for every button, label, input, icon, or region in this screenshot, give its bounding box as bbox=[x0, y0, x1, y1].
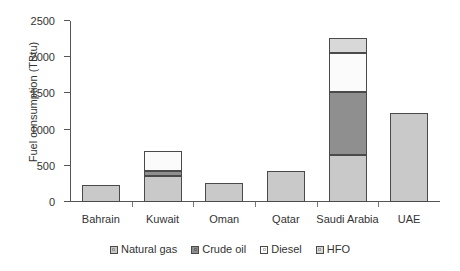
legend-label: Diesel bbox=[271, 244, 302, 255]
y-tick-2500: 2500 bbox=[64, 20, 70, 21]
bar-uae[interactable] bbox=[390, 113, 428, 202]
bar-oman[interactable] bbox=[205, 183, 243, 202]
legend-swatch-icon bbox=[110, 246, 118, 254]
legend-swatch-icon bbox=[260, 246, 268, 254]
y-tick-label-1500: 1500 bbox=[31, 87, 55, 99]
legend-item-hfo[interactable]: HFO bbox=[316, 244, 350, 255]
stacked-bar-chart: Fuel consumption (TBtu) 0500100015002000… bbox=[0, 0, 460, 271]
x-tick-4 bbox=[378, 202, 379, 207]
legend-item-crude-oil[interactable]: Crude oil bbox=[191, 244, 246, 255]
x-label-saudi-arabia: Saudi Arabia bbox=[316, 213, 378, 225]
y-tick-label-2000: 2000 bbox=[31, 51, 55, 63]
legend-swatch-icon bbox=[316, 246, 324, 254]
bar-saudi-arabia[interactable] bbox=[329, 38, 367, 202]
x-label-oman: Oman bbox=[209, 213, 239, 225]
y-axis-line bbox=[70, 21, 71, 202]
x-label-bahrain: Bahrain bbox=[82, 213, 120, 225]
legend-label: Natural gas bbox=[121, 244, 177, 255]
legend-swatch-icon bbox=[191, 246, 199, 254]
bar-qatar[interactable] bbox=[267, 171, 305, 202]
segment-hfo[interactable] bbox=[329, 38, 367, 53]
x-tick-0 bbox=[132, 202, 133, 207]
y-tick-1000: 1000 bbox=[64, 129, 70, 130]
x-tick-1 bbox=[193, 202, 194, 207]
segment-natural-gas[interactable] bbox=[267, 171, 305, 202]
legend-item-diesel[interactable]: Diesel bbox=[260, 244, 302, 255]
x-label-qatar: Qatar bbox=[272, 213, 300, 225]
y-tick-label-0: 0 bbox=[49, 196, 55, 208]
chart-legend: Natural gasCrude oilDieselHFO bbox=[0, 244, 460, 255]
y-tick-label-1000: 1000 bbox=[31, 124, 55, 136]
segment-natural-gas[interactable] bbox=[82, 185, 120, 202]
x-tick-3 bbox=[317, 202, 318, 207]
segment-natural-gas[interactable] bbox=[390, 113, 428, 202]
segment-natural-gas[interactable] bbox=[144, 176, 182, 202]
y-tick-label-500: 500 bbox=[37, 160, 55, 172]
segment-diesel[interactable] bbox=[144, 151, 182, 171]
x-tick-2 bbox=[255, 202, 256, 207]
x-label-kuwait: Kuwait bbox=[146, 213, 179, 225]
y-tick-0: 0 bbox=[64, 201, 70, 202]
legend-label: HFO bbox=[327, 244, 350, 255]
bar-kuwait[interactable] bbox=[144, 151, 182, 202]
segment-natural-gas[interactable] bbox=[205, 183, 243, 202]
segment-diesel[interactable] bbox=[329, 53, 367, 92]
y-tick-label-2500: 2500 bbox=[31, 15, 55, 27]
y-tick-2000: 2000 bbox=[64, 56, 70, 57]
bar-bahrain[interactable] bbox=[82, 185, 120, 202]
y-tick-1500: 1500 bbox=[64, 92, 70, 93]
x-label-uae: UAE bbox=[398, 213, 421, 225]
y-tick-500: 500 bbox=[64, 165, 70, 166]
legend-item-natural-gas[interactable]: Natural gas bbox=[110, 244, 177, 255]
plot-area: 05001000150020002500 bbox=[70, 21, 440, 202]
segment-crude-oil[interactable] bbox=[329, 92, 367, 155]
legend-label: Crude oil bbox=[202, 244, 246, 255]
segment-natural-gas[interactable] bbox=[329, 155, 367, 202]
